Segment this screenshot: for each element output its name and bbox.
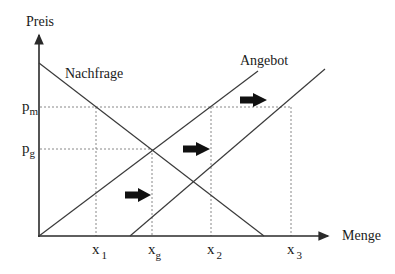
quantity-label-x2: x2 bbox=[207, 241, 222, 261]
supply-label: Angebot bbox=[240, 53, 288, 68]
shift-arrow-icon bbox=[125, 188, 151, 202]
demand-label: Nachfrage bbox=[65, 66, 123, 81]
quantity-label-xg: xg bbox=[148, 241, 162, 261]
quantity-label-x1: x1 bbox=[92, 241, 107, 261]
supply-curve-1 bbox=[39, 71, 258, 236]
supply-demand-diagram: Preis Menge Nachfrage Angebot pm pg x1 x… bbox=[0, 0, 395, 274]
quantity-label-x3: x3 bbox=[287, 241, 303, 261]
shift-arrows bbox=[125, 93, 267, 202]
x-axis-label: Menge bbox=[342, 228, 381, 243]
price-label-pg: pg bbox=[22, 140, 36, 159]
y-axis-label: Preis bbox=[26, 14, 54, 29]
price-label-pm: pm bbox=[22, 98, 39, 117]
shift-arrow-icon bbox=[183, 142, 210, 156]
shift-arrow-icon bbox=[240, 93, 267, 107]
guide-lines bbox=[40, 107, 291, 236]
